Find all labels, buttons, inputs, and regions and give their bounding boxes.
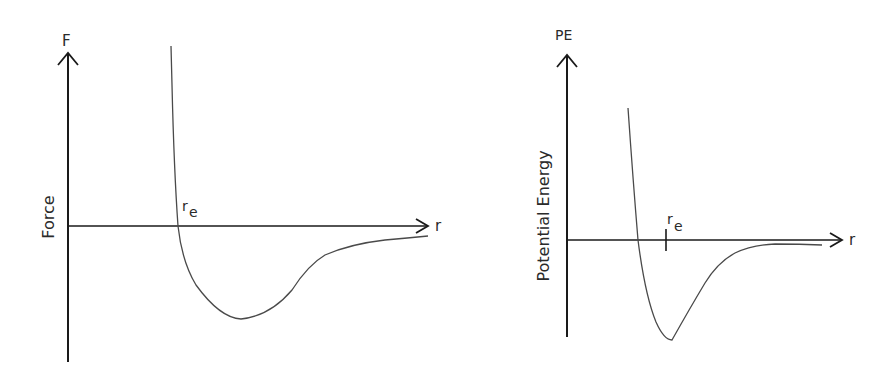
pe-re-sub: e: [674, 218, 683, 234]
pe-x-symbol: r: [849, 231, 856, 249]
force-x-symbol: r: [435, 217, 442, 235]
pe-curve: [628, 108, 822, 340]
pe-graph: PE Potential Energy r r e: [534, 27, 856, 340]
pe-re-label: r e: [667, 211, 683, 234]
force-re-label: r e: [182, 198, 198, 220]
pe-re-main: r: [667, 211, 673, 227]
force-graph: F Force r r e: [39, 32, 442, 362]
pe-y-symbol: PE: [555, 27, 572, 43]
force-y-symbol: F: [62, 32, 71, 50]
force-re-sub: e: [189, 204, 198, 220]
force-y-label: Force: [39, 195, 58, 238]
pe-y-label: Potential Energy: [534, 150, 553, 281]
diagram-canvas: F Force r r e PE Potential Energy r r e: [0, 0, 892, 374]
force-re-main: r: [182, 198, 188, 214]
force-curve: [171, 46, 428, 319]
